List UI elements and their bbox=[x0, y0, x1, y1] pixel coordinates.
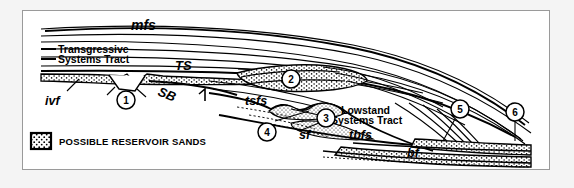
section-geometry: mfs Transgressive Systems Tract TS SB iv… bbox=[31, 17, 531, 167]
legend-sand-swatch bbox=[31, 133, 51, 149]
sb-tick bbox=[199, 89, 205, 101]
callout-2-number: 2 bbox=[288, 74, 294, 85]
callout-1-leader-b bbox=[137, 89, 146, 97]
label-tbfs: tbfs bbox=[349, 128, 372, 142]
callout-3[interactable]: 3 bbox=[317, 109, 335, 127]
label-ts: TS bbox=[175, 58, 192, 73]
callout-6[interactable]: 6 bbox=[506, 103, 524, 121]
callout-6-number: 6 bbox=[512, 107, 518, 118]
label-bf: bf bbox=[407, 146, 421, 160]
label-tsfs: tsfs bbox=[245, 94, 267, 108]
label-sf: sf bbox=[299, 128, 312, 142]
callout-1-leader-a bbox=[107, 87, 115, 95]
callout-1[interactable]: 1 bbox=[117, 91, 135, 109]
callout-4[interactable]: 4 bbox=[258, 123, 276, 141]
callout-3-number: 3 bbox=[323, 113, 329, 124]
label-ivf: ivf bbox=[45, 94, 61, 108]
legend: POSSIBLE RESERVOIR SANDS bbox=[31, 133, 206, 149]
callout-5-number: 5 bbox=[457, 104, 463, 115]
incised-valley-fill bbox=[109, 75, 145, 91]
figure-container: mfs Transgressive Systems Tract TS SB iv… bbox=[0, 0, 574, 188]
callout-4-number: 4 bbox=[264, 127, 270, 138]
diagram-panel: mfs Transgressive Systems Tract TS SB iv… bbox=[22, 10, 550, 170]
label-lowstand-line2: Systems Tract bbox=[331, 114, 403, 126]
legend-label: POSSIBLE RESERVOIR SANDS bbox=[59, 136, 206, 147]
cross-section-svg: mfs Transgressive Systems Tract TS SB iv… bbox=[23, 11, 550, 170]
callout-1-number: 1 bbox=[123, 95, 129, 106]
callout-5[interactable]: 5 bbox=[451, 100, 469, 118]
label-mfs: mfs bbox=[131, 17, 156, 33]
diagram-canvas: mfs Transgressive Systems Tract TS SB iv… bbox=[23, 11, 549, 169]
label-sb: SB bbox=[156, 84, 178, 105]
label-transgressive-line2: Systems Tract bbox=[58, 53, 130, 65]
callout-2[interactable]: 2 bbox=[282, 70, 300, 88]
